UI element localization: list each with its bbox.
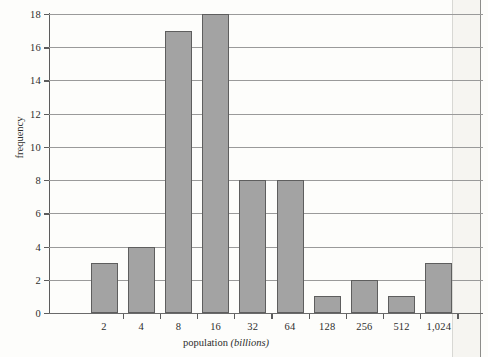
y-gridline [49,47,483,48]
x-axis-tick-label: 8 [176,321,181,332]
bar [128,247,155,313]
x-axis-tick [197,314,198,319]
y-axis-tick [44,180,49,181]
y-axis-tick-label: 16 [30,42,41,53]
bar [91,263,118,313]
x-axis-tick-label: 2 [101,321,106,332]
y-axis-tick-label: 6 [36,208,41,219]
x-axis-tick-label: 64 [285,321,296,332]
y-axis-tick [44,114,49,115]
y-axis-tick [44,14,49,15]
y-axis-tick [44,280,49,281]
y-axis-tick [44,47,49,48]
bar [202,14,229,313]
bar [388,296,415,313]
histogram-figure: 024681012141618 frequency population (bi… [0,0,488,357]
x-axis-tick-label: 4 [138,321,143,332]
y-gridline [49,114,483,115]
x-axis-tick-label: 256 [356,321,372,332]
y-axis-title: frequency [14,93,25,183]
x-axis-title: population (billions) [0,337,452,348]
x-axis-tick-label: 1,024 [426,321,451,332]
y-axis-tick-label: 2 [36,274,41,285]
x-axis-title-unit: (billions) [231,337,270,348]
y-gridline [49,147,483,148]
y-axis-tick [44,213,49,214]
x-axis-tick [234,314,235,319]
x-axis-tick [309,314,310,319]
y-axis-tick-label: 8 [36,175,41,186]
y-axis-tick [44,247,49,248]
y-axis-tick [44,147,49,148]
bar [277,180,304,313]
x-axis-tick-label: 128 [319,321,335,332]
x-axis-tick [457,314,458,319]
y-axis-tick-label: 12 [30,108,41,119]
bar [425,263,452,313]
y-gridline [49,80,483,81]
x-axis-tick [271,314,272,319]
y-gridline [49,14,483,15]
x-axis-tick [123,314,124,319]
bar [314,296,341,313]
x-axis-tick [160,314,161,319]
bar [165,31,192,313]
x-axis-tick [383,314,384,319]
y-axis-tick-label: 10 [30,141,41,152]
y-axis-tick [44,313,49,314]
y-axis-tick-label: 4 [36,241,41,252]
x-axis-tick-label: 16 [210,321,221,332]
y-axis-tick-label: 18 [30,9,41,20]
y-axis-tick [44,80,49,81]
y-axis-tick-label: 14 [30,75,41,86]
bar [239,180,266,313]
x-axis-tick [346,314,347,319]
x-axis-tick [420,314,421,319]
x-axis-title-text: population [183,337,228,348]
bar [351,280,378,313]
x-axis-tick-label: 32 [247,321,258,332]
x-axis-tick-label: 512 [393,321,409,332]
y-axis-tick-label: 0 [36,308,41,319]
